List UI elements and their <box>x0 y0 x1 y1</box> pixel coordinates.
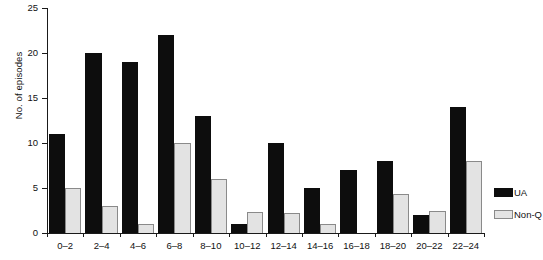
bar-non-q-2-4 <box>102 206 118 233</box>
bar-ua-14-16 <box>304 188 320 233</box>
bar-non-q-6-8 <box>174 143 190 233</box>
bar-ua-12-14 <box>268 143 284 233</box>
chart-legend: UANon-Q <box>494 186 543 230</box>
legend-item-non-q: Non-Q <box>494 208 543 221</box>
bar-non-q-14-16 <box>320 224 336 233</box>
bar-ua-4-6 <box>122 62 138 233</box>
bar-ua-22-24 <box>450 107 466 233</box>
black-square-swatch <box>494 188 513 197</box>
bar-ua-0-2 <box>49 134 65 233</box>
legend-label: UA <box>514 188 527 198</box>
bar-ua-8-10 <box>195 116 211 233</box>
bar-non-q-4-6 <box>138 224 154 233</box>
bar-non-q-18-20 <box>393 194 409 233</box>
bar-non-q-12-14 <box>284 213 300 233</box>
bar-non-q-0-2 <box>65 188 81 233</box>
bar-ua-2-4 <box>85 53 101 233</box>
bar-non-q-10-12 <box>247 212 263 233</box>
legend-label: Non-Q <box>514 210 542 220</box>
bar-non-q-20-22 <box>429 211 445 233</box>
bar-non-q-8-10 <box>211 179 227 233</box>
bar-non-q-22-24 <box>466 161 482 233</box>
bar-chart: No. of episodes 0510152025 0–22–44–66–88… <box>0 0 543 260</box>
bar-ua-6-8 <box>158 35 174 233</box>
plot-area <box>0 0 543 260</box>
bar-ua-18-20 <box>377 161 393 233</box>
bar-ua-10-12 <box>231 224 247 233</box>
bar-ua-20-22 <box>413 215 429 233</box>
legend-item-ua: UA <box>494 186 543 199</box>
gray-square-swatch <box>494 210 513 219</box>
bar-ua-16-18 <box>340 170 356 233</box>
